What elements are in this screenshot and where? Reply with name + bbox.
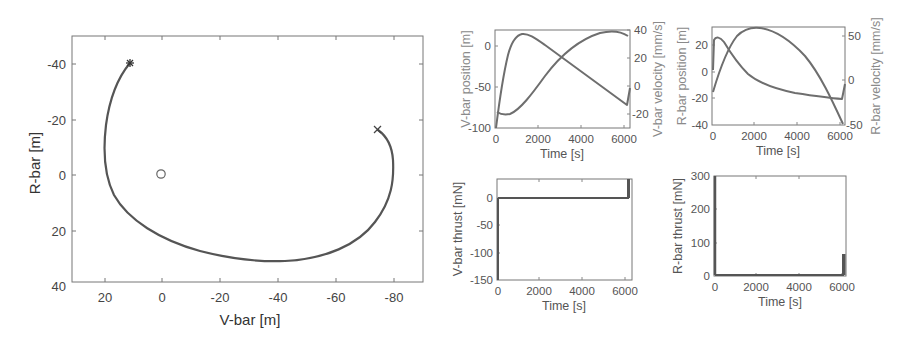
xtick-label: 0	[710, 130, 716, 142]
vbar-thrust-ticks	[497, 179, 625, 280]
vbar-state-axes-box	[495, 30, 630, 128]
start-star-marker	[126, 59, 134, 67]
right-ytick-label: 0	[848, 74, 854, 86]
trajectory-plot: 20 0 -20 -40 -60 -80 -40 -20 0 20 40 V-b…	[26, 36, 423, 328]
rbar-thrust-final-spike	[842, 254, 846, 275]
trajectory-ticks	[72, 36, 423, 282]
left-y-axis-label: V-bar position [m]	[459, 30, 473, 127]
end-x-marker	[374, 126, 381, 133]
x-axis-label: V-bar [m]	[220, 311, 281, 328]
xtick-label: 6000	[611, 133, 637, 145]
ytick-label: 0	[487, 192, 493, 204]
xtick-label: 6000	[612, 285, 638, 297]
xtick-label: 4000	[786, 281, 812, 293]
rbar-thrust-plot: 300 200 100 0 0 2000 4000 6000 Time [s] …	[671, 170, 855, 309]
xtick-label: 6000	[827, 130, 853, 142]
xtick-label: 4000	[569, 285, 595, 297]
trajectory-curve	[105, 63, 394, 261]
xtick-label: 2000	[526, 285, 552, 297]
y-axis-label: V-bar thrust [mN]	[451, 182, 465, 276]
ytick-label: 100	[691, 237, 710, 249]
rbar-thrust-ticks	[714, 176, 842, 276]
right-ytick-label: 50	[848, 30, 861, 42]
left-ytick-label: 20	[695, 39, 708, 51]
ytick-label: -20	[47, 113, 66, 128]
xtick-label: 0	[495, 285, 501, 297]
xtick-label: 2000	[741, 130, 767, 142]
right-ytick-label: 40	[634, 24, 647, 36]
vbar-thrust-plot: 0 -50 -100 -150 0 2000 4000 6000 Time [s…	[451, 179, 638, 313]
xtick-label: -20	[211, 290, 230, 305]
xtick-label: 2000	[743, 281, 769, 293]
right-y-axis-label: V-bar velocity [mm/s]	[651, 21, 665, 137]
xtick-label: 6000	[829, 281, 855, 293]
rbar-position-curve	[713, 28, 843, 124]
x-axis-label: Time [s]	[758, 295, 802, 309]
ytick-label: 0	[704, 270, 710, 282]
ytick-label: 0	[59, 168, 66, 183]
ytick-label: -100	[470, 247, 493, 259]
ytick-label: 300	[691, 170, 710, 182]
xtick-label: 2000	[525, 133, 551, 145]
figure: 20 0 -20 -40 -60 -80 -40 -20 0 20 40 V-b…	[0, 0, 914, 340]
xtick-label: -60	[327, 290, 346, 305]
left-y-axis-label: R-bar position [m]	[675, 27, 689, 126]
vbar-thrust-axes-box	[497, 179, 632, 280]
rbar-state-plot: 20 0 -20 -40 50 0 -50 0 2000 4000 6000 T…	[675, 17, 883, 158]
right-y-axis-label: R-bar velocity [mm/s]	[869, 17, 883, 134]
left-ytick-label: -40	[691, 119, 708, 131]
xtick-label: 0	[712, 281, 718, 293]
ytick-label: -150	[470, 274, 493, 286]
ytick-label: -40	[47, 57, 66, 72]
xtick-label: -80	[385, 290, 404, 305]
left-ytick-label: 0	[485, 40, 491, 52]
xtick-label: 20	[98, 290, 112, 305]
vbar-velocity-curve	[496, 34, 630, 128]
left-ytick-label: 0	[702, 66, 708, 78]
x-axis-label: Time [s]	[756, 144, 800, 158]
vbar-state-ticks	[495, 30, 630, 128]
left-ytick-label: -50	[474, 81, 491, 93]
right-ytick-label: 0	[634, 80, 640, 92]
y-axis-label: R-bar [m]	[26, 132, 43, 195]
right-ytick-label: -20	[632, 108, 649, 120]
y-axis-label: R-bar thrust [mN]	[671, 178, 685, 274]
right-ytick-label: 20	[634, 52, 647, 64]
ytick-label: 20	[52, 224, 66, 239]
xtick-label: 4000	[568, 133, 594, 145]
vbar-position-curve	[497, 32, 628, 115]
x-axis-label: Time [s]	[540, 147, 584, 161]
rbar-thrust-axes-box	[714, 176, 846, 276]
rbar-state-ticks	[712, 36, 845, 125]
xtick-label: -40	[269, 290, 288, 305]
xtick-label: 4000	[784, 130, 810, 142]
xtick-label: 0	[493, 133, 499, 145]
rbar-velocity-curve	[713, 38, 845, 99]
vbar-state-plot: 0 -50 -100 40 20 0 -20 0 2000 4000 6000 …	[459, 21, 665, 161]
ytick-label: -50	[476, 219, 493, 231]
ytick-label: 200	[691, 203, 710, 215]
vbar-thrust-final-spike	[627, 179, 630, 198]
ytick-label: 40	[52, 279, 66, 294]
trajectory-axes-box	[72, 36, 423, 282]
xtick-label: 0	[158, 290, 165, 305]
target-circle-marker	[157, 170, 165, 178]
left-ytick-label: -20	[691, 92, 708, 104]
x-axis-label: Time [s]	[542, 299, 586, 313]
